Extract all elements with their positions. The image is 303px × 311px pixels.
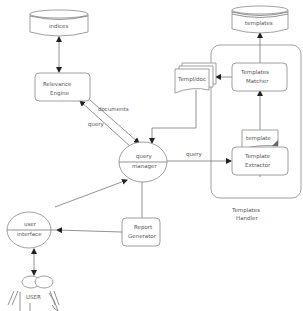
- template-extractor-box: Template Extractor: [232, 147, 288, 175]
- templates-db-label: templates: [245, 20, 273, 27]
- indices-label: indices: [49, 23, 68, 29]
- user-interface-label-2: interface: [17, 231, 42, 237]
- templates-handler-label-1: Templates: [231, 207, 260, 214]
- architecture-diagram: Templates Handler documents query query …: [0, 0, 303, 311]
- report-generator-label-2: Generator: [128, 233, 157, 239]
- templates-database: templates: [232, 6, 288, 33]
- query-manager-label-1: query: [136, 153, 153, 160]
- templates-matcher-label-1: Templates: [240, 69, 269, 76]
- template-doc-label: template: [246, 135, 271, 142]
- template-extractor-label-1: Template: [244, 153, 271, 160]
- user-label: USER: [26, 294, 41, 300]
- ui-manager-edge: [55, 180, 127, 207]
- templates-matcher-box: Templates Matcher: [232, 63, 287, 91]
- user-interface-label-1: user: [24, 221, 37, 227]
- relevance-engine-label-1: Relevance: [43, 81, 72, 87]
- report-generator-label-1: Report: [134, 224, 153, 231]
- report-ui-edge: [57, 230, 122, 232]
- query-edge-extractor-label: query: [186, 151, 203, 158]
- templ-doc-stack: Templ/doc: [175, 63, 216, 93]
- templates-matcher-label-2: Matcher: [246, 78, 269, 84]
- template-extractor-label-2: Extractor: [245, 162, 271, 168]
- query-edge-engine-label: query: [88, 121, 105, 128]
- templdoc-manager-edge: [152, 90, 196, 143]
- user-figure: USER: [8, 276, 59, 311]
- templ-doc-label: Templ/doc: [177, 76, 206, 83]
- templates-handler-label-2: Handler: [236, 215, 258, 221]
- relevance-engine-box: Relevance Engine: [35, 73, 90, 101]
- indices-database: indices: [30, 10, 88, 36]
- user-interface-ellipse: user interface: [7, 212, 56, 248]
- relevance-engine-label-2: Engine: [50, 90, 69, 97]
- query-manager-label-2: manager: [132, 163, 157, 170]
- query-manager-ellipse: query manager: [119, 142, 167, 182]
- report-generator-box: Report Generator: [122, 218, 160, 246]
- documents-edge-label: documents: [98, 106, 129, 112]
